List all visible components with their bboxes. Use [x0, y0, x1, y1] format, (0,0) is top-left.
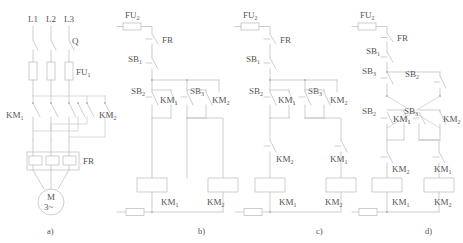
interlock-contact-km1-c: [305, 118, 347, 178]
bottom-fuse-c: [244, 209, 262, 216]
hold-label-km2-c: KM2: [330, 95, 348, 106]
hold-label-km1-c: KM1: [278, 95, 296, 106]
coil-label-km1-c: KM1: [279, 197, 297, 208]
coil-label-km1-b: KM1: [161, 197, 179, 208]
contactor-label-km2: KM2: [99, 110, 117, 121]
coil-km1-b: [137, 178, 167, 192]
overload-label-fr-d: FR: [397, 33, 408, 43]
coil-label-km1-d: KM1: [392, 197, 410, 208]
coil-label-km2-b: KM2: [207, 197, 225, 208]
fuse-l3: [65, 62, 73, 80]
start-label-sb2-b: SB2: [131, 86, 145, 97]
coil-leads-b: [152, 118, 187, 178]
coil-km1-d: [372, 178, 402, 192]
hold-label-km2-d: KM2: [443, 114, 461, 125]
nc-contact-sb3-d: [381, 72, 393, 96]
fuse-body: [358, 23, 376, 30]
fuse-body: [241, 23, 259, 30]
start-label-sb2-c: SB2: [249, 86, 263, 97]
isolator-label-q: Q: [72, 36, 79, 46]
fuse-l1: [29, 62, 37, 80]
caption-a: a): [47, 226, 54, 236]
supply-label-l3: L3: [64, 14, 74, 24]
start-button-sb2-b: [146, 92, 158, 118]
nc-contact-sb2-d: [434, 76, 446, 96]
caption-b: b): [198, 226, 205, 236]
nc-label-sb2-d: SB2: [405, 69, 419, 80]
bottom-rail-d: [352, 209, 439, 216]
overload-element-2: [46, 156, 59, 165]
overload-contact-fr-d: [381, 33, 393, 52]
caption-d: d): [425, 226, 432, 236]
motor-label: M: [47, 192, 55, 202]
fuse-label-fu2-d: FU2: [360, 10, 375, 21]
panel-c-control-circuit: FU2 FR SB1: [235, 10, 356, 236]
fuse-label-fu2-b: FU2: [125, 10, 140, 21]
fuse-fu2-c: [235, 23, 270, 34]
circuit-diagram-sheet: L1 L2 L3 Q: [0, 0, 463, 243]
fuse-l2: [47, 62, 55, 80]
hold-label-km1-b: KM1: [160, 95, 178, 106]
interlock-label-km1-d: KM1: [434, 164, 452, 175]
contactor-km1-poles: [32, 102, 76, 140]
stop-button-sb1-c: [264, 58, 276, 80]
bottom-rail-c: [235, 209, 341, 216]
interlock-label-km2-c: KM2: [276, 154, 294, 165]
interlock-label-km2-d: KM2: [392, 164, 410, 175]
stop-label-sb1-c: SB1: [246, 54, 260, 65]
motor-leads: [33, 170, 69, 189]
coil-km2-b: [208, 178, 238, 192]
start-label-sb3-b: SB3: [190, 86, 204, 97]
stop-label-sb1-b: SB1: [128, 54, 142, 65]
caption-c: c): [316, 226, 323, 236]
overload-contact-fr-c: [264, 34, 276, 58]
coil-label-km2-d: KM2: [434, 197, 452, 208]
fuse-group-fu1: [29, 62, 73, 96]
stop-label-sb1-d: SB1: [366, 46, 380, 57]
overload-relay-fr: [27, 140, 79, 170]
interlock-label-km1-c: KM1: [330, 154, 348, 165]
supply-label-l1: L1: [28, 14, 38, 24]
fuse-fu2-b: [117, 23, 152, 34]
panel-a-power-circuit: L1 L2 L3 Q: [6, 14, 117, 236]
nc-label-sb3-d: SB3: [362, 66, 376, 77]
supply-feeders: [33, 26, 69, 40]
start-label-sb2-d: SB2: [362, 106, 376, 117]
fuse-fu2-d: [352, 23, 387, 33]
bottom-fuse-d: [359, 209, 377, 216]
overload-contact-fr-b: [146, 34, 158, 58]
hold-label-km2-b: KM2: [212, 95, 230, 106]
overload-element-1: [29, 156, 42, 165]
fuse-label-fu2-c: FU2: [243, 10, 258, 21]
start-label-sb3-c: SB3: [308, 86, 322, 97]
panel-b-control-circuit: FU2 FR SB1: [117, 10, 238, 236]
coil-km1-c: [255, 178, 285, 192]
start-button-sb2-c: [264, 92, 276, 118]
fuse-body: [123, 23, 141, 30]
panel-d-control-circuit: FU2 FR SB1: [352, 10, 461, 236]
coil-label-km2-c: KM2: [325, 197, 343, 208]
overload-element-3: [63, 156, 76, 165]
overload-label-fr-c: FR: [280, 35, 291, 45]
interlock-contact-km2-c: [264, 118, 276, 178]
stop-button-sb1-b: [146, 58, 158, 80]
contactor-label-km1: KM1: [6, 110, 24, 121]
fuse-label-fu1: FU1: [76, 67, 91, 78]
coil-km2-d: [424, 178, 454, 192]
bottom-fuse-b: [126, 209, 144, 216]
coil-km2-c: [326, 178, 356, 192]
start-button-sb2-d: [381, 112, 393, 140]
overload-label-fr: FR: [83, 156, 94, 166]
hold-contact-km2-d: [419, 110, 446, 140]
motor-m: M 3~: [38, 189, 64, 215]
stop-button-sb1-d: [381, 52, 393, 72]
motor-phase-label: 3~: [44, 202, 54, 212]
overload-label-fr-b: FR: [162, 35, 173, 45]
supply-label-l2: L2: [46, 14, 56, 24]
bottom-rail-b: [117, 209, 223, 216]
